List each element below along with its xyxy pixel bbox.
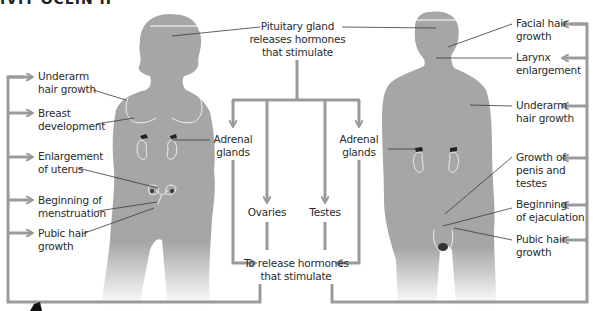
release-hormones-label: To release hormones that stimulate xyxy=(244,257,348,283)
male-facial-hair-label: Facial hair growth xyxy=(516,17,567,43)
male-underarm-hair-label: Underarm hair growth xyxy=(516,99,574,125)
female-breast-development-label: Breast development xyxy=(38,107,105,133)
puberty-hormone-diagram: IVIT OCLIN II Pituitary gland releases h… xyxy=(0,0,593,311)
male-ejaculation-label: Beginning of ejaculation xyxy=(516,198,584,224)
female-silhouette xyxy=(100,14,215,306)
female-menstruation-label: Beginning of menstruation xyxy=(38,194,106,220)
pituitary-label: Pituitary gland releases hormones that s… xyxy=(235,20,360,59)
female-bracket-arrows xyxy=(8,77,32,233)
female-uterus-enlargement-label: Enlargement of uterus xyxy=(38,150,103,176)
male-pubic-hair-label: Pubic hair growth xyxy=(516,233,566,259)
ovaries-label: Ovaries xyxy=(246,206,288,219)
female-pubic-hair-label: Pubic hair growth xyxy=(38,227,88,253)
male-larynx-label: Larynx enlargement xyxy=(516,51,581,77)
adrenal-glands-left-label: Adrenal glands xyxy=(212,133,254,159)
female-underarm-hair-label: Underarm hair growth xyxy=(38,70,96,96)
male-penis-testes-label: Growth of penis and testes xyxy=(516,151,566,190)
male-silhouette xyxy=(382,12,496,306)
cut-off-title: IVIT OCLIN II xyxy=(0,0,112,7)
testes-label: Testes xyxy=(304,206,346,219)
adrenal-glands-right-label: Adrenal glands xyxy=(338,133,380,159)
